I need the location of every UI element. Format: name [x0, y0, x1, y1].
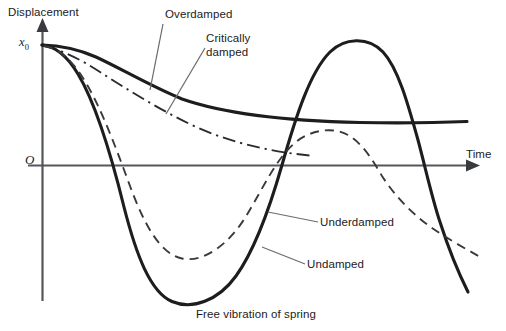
x-axis-label: Time — [466, 148, 492, 162]
overdamped-label: Overdamped — [165, 8, 232, 22]
initial-displacement-label: x0 — [19, 36, 29, 54]
leader-line-overdamped — [150, 24, 163, 90]
initial-displacement-subscript: 0 — [25, 42, 29, 52]
curve-critically-damped — [44, 46, 310, 156]
underdamped-label: Underdamped — [320, 216, 394, 230]
origin-label: O — [25, 153, 35, 167]
displacement-axis-arrowhead — [37, 18, 49, 32]
free-vibration-of-spring-figure: Displacement Time x0 O Overdamped Critic… — [0, 0, 506, 331]
vibration-plot-svg — [0, 0, 506, 331]
figure-caption: Free vibration of spring — [196, 308, 316, 322]
undamped-label: Undamped — [307, 258, 364, 272]
leader-line-undamped — [262, 247, 305, 264]
y-axis-label: Displacement — [8, 6, 79, 20]
critically-damped-label-line2: damped — [206, 46, 248, 58]
curve-overdamped — [42, 45, 467, 123]
critically-damped-label-line1: Critically — [206, 32, 250, 44]
curve-undamped — [42, 41, 468, 305]
leader-line-underdamped — [268, 212, 318, 222]
critically-damped-label: Criticallydamped — [206, 32, 250, 59]
